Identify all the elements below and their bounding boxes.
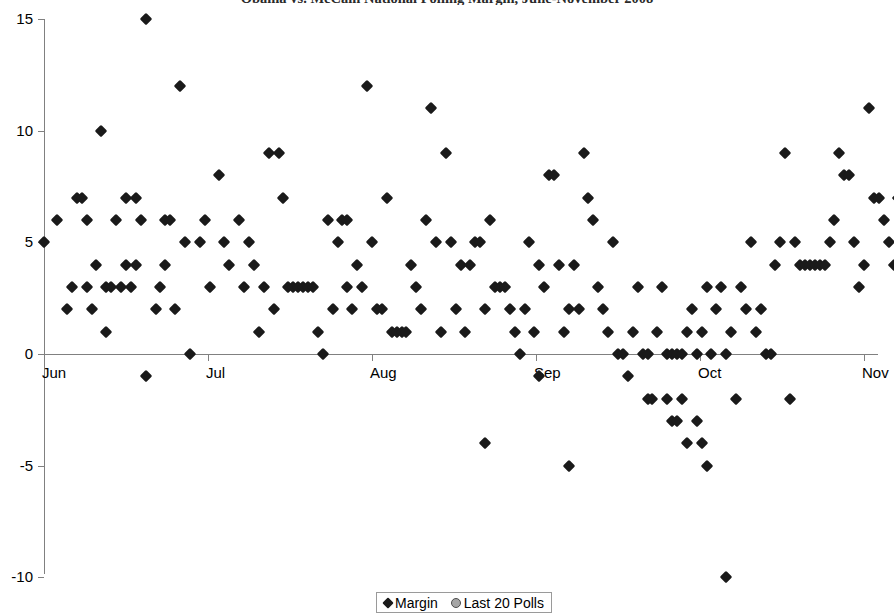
data-point-margin bbox=[139, 13, 152, 26]
data-point-margin bbox=[754, 303, 767, 316]
chart-title: Obama vs. McCain National Polling Margin… bbox=[0, 0, 894, 5]
legend-item-last-20-polls: Last 20 Polls bbox=[451, 596, 544, 610]
data-point-margin bbox=[316, 348, 329, 361]
y-tick-label: -5 bbox=[0, 458, 33, 473]
data-point-margin bbox=[80, 281, 93, 294]
y-axis-line bbox=[44, 19, 45, 574]
data-point-margin bbox=[444, 236, 457, 249]
data-point-margin bbox=[853, 281, 866, 294]
data-point-margin bbox=[621, 370, 634, 383]
data-point-margin bbox=[626, 325, 639, 338]
data-point-margin bbox=[435, 325, 448, 338]
x-tick-mark bbox=[44, 354, 45, 361]
data-point-margin bbox=[110, 214, 123, 227]
data-point-margin bbox=[538, 281, 551, 294]
data-point-margin bbox=[690, 348, 703, 361]
data-point-margin bbox=[513, 348, 526, 361]
y-tick-label: -10 bbox=[0, 569, 33, 584]
data-point-margin bbox=[715, 281, 728, 294]
data-point-margin bbox=[744, 236, 757, 249]
data-point-margin bbox=[681, 325, 694, 338]
data-point-margin bbox=[346, 303, 359, 316]
data-point-margin bbox=[858, 258, 871, 271]
data-point-margin bbox=[174, 80, 187, 93]
data-point-margin bbox=[695, 325, 708, 338]
data-point-margin bbox=[661, 392, 674, 405]
data-point-margin bbox=[341, 281, 354, 294]
y-tick-label: 15 bbox=[0, 11, 33, 26]
data-point-margin bbox=[85, 303, 98, 316]
data-point-margin bbox=[312, 325, 325, 338]
data-point-margin bbox=[597, 303, 610, 316]
y-tick-mark bbox=[38, 466, 44, 467]
data-point-margin bbox=[361, 80, 374, 93]
data-point-margin bbox=[823, 236, 836, 249]
data-point-margin bbox=[95, 124, 108, 137]
data-point-margin bbox=[651, 325, 664, 338]
data-point-margin bbox=[218, 236, 231, 249]
data-point-margin bbox=[577, 147, 590, 160]
data-point-margin bbox=[331, 236, 344, 249]
data-point-margin bbox=[607, 236, 620, 249]
legend-label-last-20-polls: Last 20 Polls bbox=[464, 596, 544, 610]
data-point-margin bbox=[567, 258, 580, 271]
data-point-margin bbox=[587, 214, 600, 227]
diamond-marker-icon bbox=[382, 597, 393, 608]
data-point-margin bbox=[277, 191, 290, 204]
data-point-margin bbox=[749, 325, 762, 338]
legend-item-margin: Margin bbox=[384, 596, 438, 610]
y-tick-label: 0 bbox=[0, 346, 33, 361]
chart-legend: Margin Last 20 Polls bbox=[376, 592, 552, 613]
x-tick-mark bbox=[536, 354, 537, 361]
data-point-margin bbox=[51, 214, 64, 227]
data-point-margin bbox=[129, 258, 142, 271]
data-point-margin bbox=[887, 258, 894, 271]
data-point-margin bbox=[233, 214, 246, 227]
data-point-margin bbox=[553, 258, 566, 271]
x-tick-mark bbox=[864, 354, 865, 361]
x-tick-mark bbox=[372, 354, 373, 361]
data-point-margin bbox=[257, 281, 270, 294]
data-point-margin bbox=[410, 281, 423, 294]
data-point-margin bbox=[592, 281, 605, 294]
data-point-margin bbox=[213, 169, 226, 182]
data-point-margin bbox=[193, 236, 206, 249]
data-point-margin bbox=[420, 214, 433, 227]
data-point-margin bbox=[882, 236, 894, 249]
data-point-margin bbox=[139, 370, 152, 383]
x-tick-label: Nov bbox=[862, 364, 889, 381]
data-point-margin bbox=[38, 236, 51, 249]
y-tick-mark bbox=[38, 19, 44, 20]
x-tick-label: Jul bbox=[206, 364, 225, 381]
data-point-margin bbox=[351, 258, 364, 271]
data-point-margin bbox=[656, 281, 669, 294]
data-point-margin bbox=[602, 325, 615, 338]
data-point-margin bbox=[479, 437, 492, 450]
data-point-margin bbox=[720, 571, 733, 584]
data-point-margin bbox=[877, 214, 890, 227]
data-point-margin bbox=[154, 281, 167, 294]
x-tick-label: Oct bbox=[698, 364, 721, 381]
data-point-margin bbox=[779, 147, 792, 160]
data-point-margin bbox=[149, 303, 162, 316]
data-point-margin bbox=[863, 102, 876, 115]
data-point-margin bbox=[558, 325, 571, 338]
data-point-margin bbox=[272, 147, 285, 160]
data-point-margin bbox=[380, 191, 393, 204]
data-point-margin bbox=[710, 303, 723, 316]
data-point-margin bbox=[562, 459, 575, 472]
data-point-margin bbox=[681, 437, 694, 450]
scatter-chart: Obama vs. McCain National Polling Margin… bbox=[0, 0, 894, 615]
x-axis-line bbox=[44, 354, 878, 355]
data-point-margin bbox=[238, 281, 251, 294]
data-point-margin bbox=[705, 348, 718, 361]
data-point-margin bbox=[774, 236, 787, 249]
data-point-margin bbox=[100, 325, 113, 338]
data-point-margin bbox=[90, 258, 103, 271]
data-point-margin bbox=[582, 191, 595, 204]
data-point-margin bbox=[503, 303, 516, 316]
y-tick-mark bbox=[38, 577, 44, 578]
data-point-margin bbox=[676, 392, 689, 405]
data-point-margin bbox=[223, 258, 236, 271]
data-point-margin bbox=[129, 191, 142, 204]
